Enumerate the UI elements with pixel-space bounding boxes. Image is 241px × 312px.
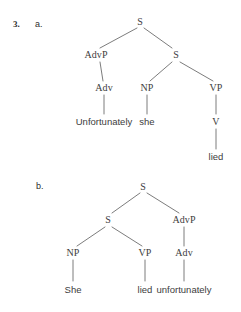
tree-b-leaf-lied: lied xyxy=(138,285,153,295)
tree-b-node-vp: VP xyxy=(139,248,152,258)
branch-b-root-to-s xyxy=(112,193,140,213)
tree-a-node-embedded-s: S xyxy=(173,50,179,60)
tree-b-node-embedded-s: S xyxy=(105,215,111,225)
tree-branch-lines xyxy=(0,0,241,312)
part-label-b: b. xyxy=(36,181,44,191)
tree-a-node-root-s: S xyxy=(137,17,143,27)
branch-b-s-to-np xyxy=(77,227,105,246)
branch-a-s-to-vp xyxy=(180,62,213,81)
tree-b-leaf-she: She xyxy=(65,285,82,295)
branch-a-s-to-np xyxy=(150,62,172,81)
tree-b-node-np: NP xyxy=(67,248,80,258)
tree-b-node-root-s: S xyxy=(140,182,146,192)
branch-b-s-to-vp xyxy=(112,227,142,246)
syntax-tree-figure: 3. a. b. S AdvP S Adv NP VP V Unfortunat… xyxy=(0,0,241,312)
tree-a-leaf-she: she xyxy=(139,117,154,127)
branch-b-root-to-advp xyxy=(147,193,179,213)
branch-a-root-to-s xyxy=(144,28,172,48)
tree-a-leaf-unfortunately: Unfortunately xyxy=(76,117,133,127)
tree-b-leaf-unfortunately: unfortunately xyxy=(157,285,212,295)
branch-a-advp-to-adv xyxy=(100,62,103,81)
tree-b-node-adv: Adv xyxy=(175,248,193,258)
part-label-a: a. xyxy=(35,19,43,29)
tree-a-node-advp: AdvP xyxy=(84,50,107,60)
exercise-number: 3. xyxy=(13,19,20,29)
tree-a-node-v: V xyxy=(212,117,219,127)
tree-a-node-vp: VP xyxy=(210,83,223,93)
tree-a-leaf-lied: lied xyxy=(209,152,224,162)
tree-a-node-np: NP xyxy=(141,83,154,93)
branch-a-root-to-advp xyxy=(100,28,137,48)
tree-a-node-adv: Adv xyxy=(95,83,113,93)
tree-b-node-advp: AdvP xyxy=(172,215,195,225)
